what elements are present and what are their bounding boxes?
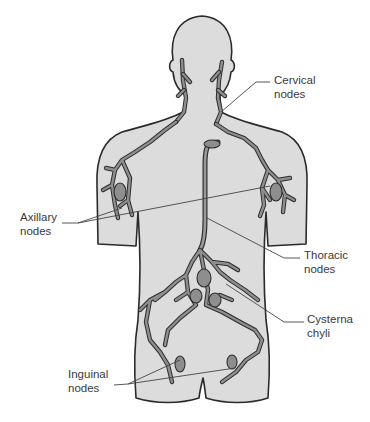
leader-cervical [221,82,270,112]
label-thoracic-nodes: Thoracic nodes [304,248,348,276]
label-axillary-nodes: Axillary nodes [20,210,57,238]
label-cysterna-chyli: Cysterna chyli [307,312,353,340]
label-inguinal-nodes: Inguinal nodes [68,367,108,395]
label-cervical-nodes: Cervical nodes [274,73,316,101]
